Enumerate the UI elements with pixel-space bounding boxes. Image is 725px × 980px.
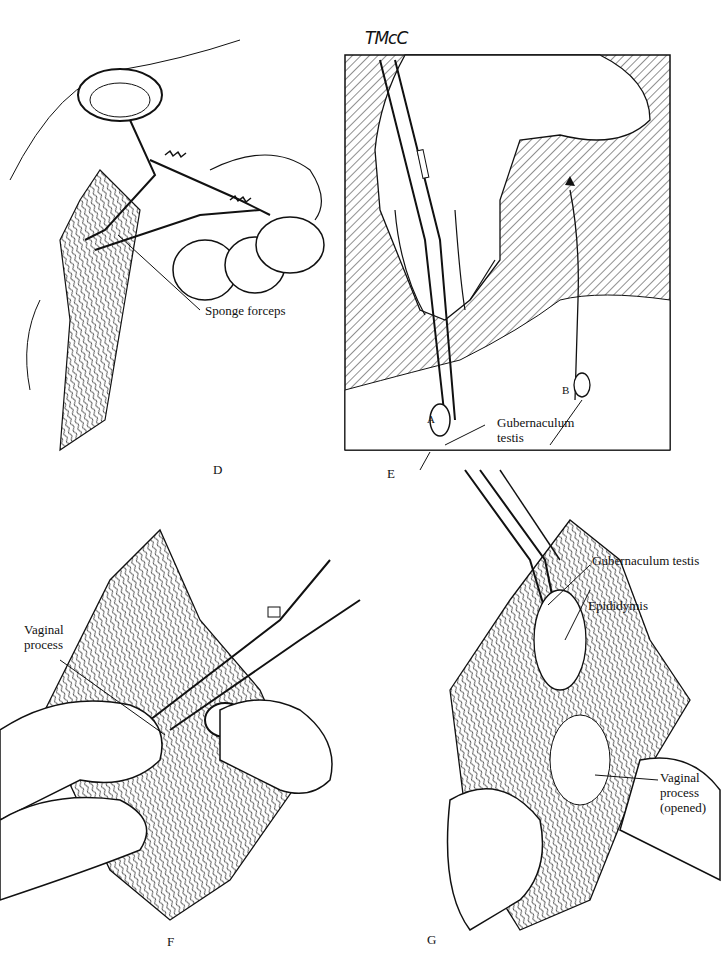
panel-letter-e: E (387, 466, 395, 482)
label-gubernaculum-testis: Gubernaculum testis (592, 553, 699, 568)
artist-signature: TMcC (365, 28, 407, 48)
panel-f-drawing (0, 530, 360, 920)
label-sponge-forceps: Sponge forceps (205, 303, 286, 318)
panel-letter-d: D (213, 462, 222, 478)
label-vaginal-g: Vaginal (660, 770, 700, 785)
label-process-g: process (660, 785, 699, 800)
panel-e-drawing (345, 55, 670, 470)
panel-g-drawing (448, 470, 721, 930)
label-opened: (opened) (660, 800, 706, 815)
label-point-a: A (427, 412, 435, 427)
label-point-b: B (562, 383, 569, 398)
panel-d-drawing (10, 40, 324, 450)
label-epididymis: Epididymis (588, 598, 648, 613)
label-gubernaculum: Gubernaculum (497, 415, 574, 430)
panel-letter-f: F (167, 934, 174, 950)
panel-letter-g: G (427, 932, 436, 948)
label-vaginal: Vaginal (24, 622, 64, 637)
label-testis: testis (497, 430, 524, 445)
illustration-linework (0, 0, 725, 980)
label-process: process (24, 637, 63, 652)
